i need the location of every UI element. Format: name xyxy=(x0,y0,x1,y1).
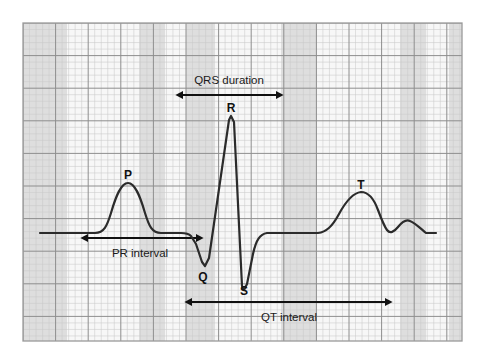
r-wave-label: R xyxy=(227,101,236,115)
t-wave-label: T xyxy=(357,178,365,192)
grid-band-1 xyxy=(139,23,165,341)
pr-interval-label: PR interval xyxy=(112,247,168,259)
grid-band-4 xyxy=(400,23,426,341)
grid-band-2 xyxy=(186,23,215,341)
ecg-diagram-canvas: QRS durationPR intervalQT interval PQRST xyxy=(0,0,484,364)
ecg-figure: QRS durationPR intervalQT interval PQRST xyxy=(0,0,484,364)
s-wave-label: S xyxy=(240,284,248,298)
q-wave-label: Q xyxy=(198,270,207,284)
grid-band-3 xyxy=(281,23,317,341)
p-wave-label: P xyxy=(124,168,132,182)
qt-interval-label: QT interval xyxy=(261,311,317,323)
qrs-duration-label: QRS duration xyxy=(194,74,264,86)
